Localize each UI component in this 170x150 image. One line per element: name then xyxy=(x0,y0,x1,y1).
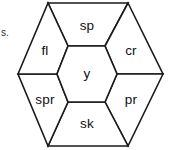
cell-fl-label: fl xyxy=(41,43,48,58)
cell-spr-label: spr xyxy=(35,92,55,107)
center-hexagon-label: y xyxy=(84,66,91,81)
cell-pr-label: pr xyxy=(125,92,138,107)
cropped-margin-text: s. xyxy=(1,28,9,38)
hexagon-diagram-svg: sp cr pr sk spr fl y xyxy=(0,0,170,150)
cell-sk-label: sk xyxy=(80,116,94,131)
hexagon-figure: sp cr pr sk spr fl y s. xyxy=(0,0,170,150)
cell-sp-label: sp xyxy=(80,18,95,33)
cell-cr-label: cr xyxy=(125,43,137,58)
